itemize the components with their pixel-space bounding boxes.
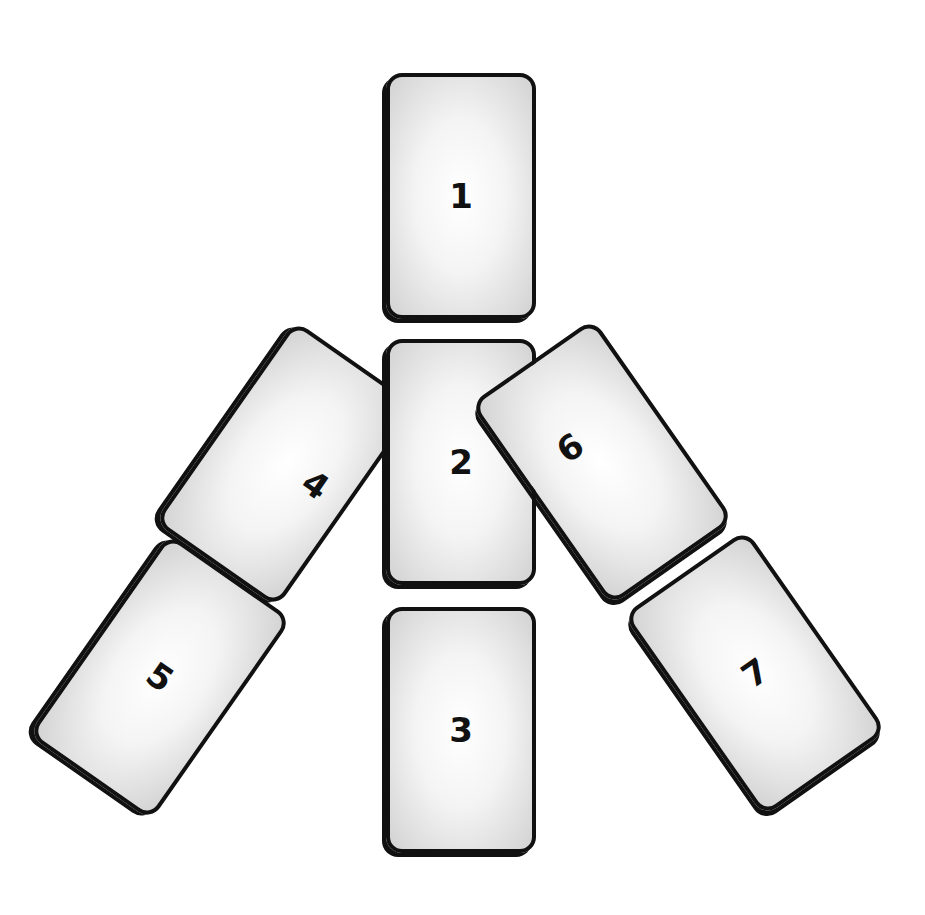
card-3: 3 (386, 607, 536, 853)
card-number: 4 (296, 464, 335, 505)
card-number: 2 (449, 445, 473, 479)
card-number: 1 (449, 179, 473, 213)
card-number: 7 (736, 652, 775, 693)
card-1: 1 (386, 73, 536, 319)
card-number: 3 (449, 713, 473, 747)
card-7: 7 (623, 529, 887, 817)
card-number: 5 (141, 656, 180, 697)
card-number: 6 (551, 427, 590, 468)
